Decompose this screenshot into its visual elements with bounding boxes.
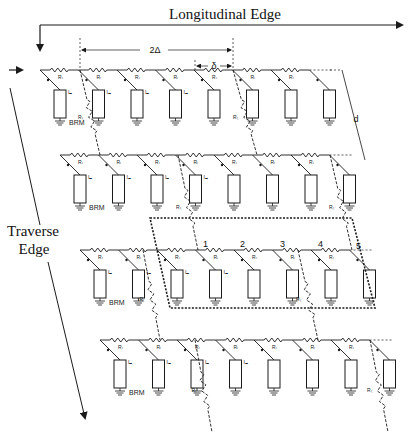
- branch-line: [80, 250, 100, 270]
- longitudinal-resistor: [253, 153, 292, 157]
- current-label: Iₘ: [88, 174, 92, 180]
- brm-box: [285, 90, 297, 118]
- brm-box: [344, 175, 356, 203]
- brm-box: [191, 360, 203, 388]
- brm-box: [268, 360, 280, 388]
- branch-line: [216, 340, 236, 360]
- resistor-label: Rₜ: [176, 204, 182, 210]
- node-number-5: 5: [356, 241, 361, 251]
- brm-box: [133, 270, 145, 298]
- longitudinal-resistor: [157, 248, 196, 252]
- brm-box: [287, 270, 299, 298]
- resistor-label: Rₗ: [214, 254, 219, 260]
- resistor-label: Rₗ: [329, 254, 334, 260]
- resistor-label: Rₜ: [329, 204, 335, 210]
- resistor-label: Rₗ: [252, 254, 257, 260]
- longitudinal-resistor: [60, 153, 99, 157]
- brm-box: [94, 270, 106, 298]
- longitudinal-resistor: [273, 248, 312, 252]
- resistor-label: Rₗ: [234, 344, 239, 350]
- node-number-1: 1: [203, 239, 208, 249]
- branch-line: [99, 155, 119, 175]
- transverse-resistor: [143, 250, 160, 340]
- longitudinal-resistor: [139, 338, 178, 342]
- longitudinal-resistor: [177, 338, 216, 342]
- longitudinal-resistor: [216, 338, 255, 342]
- brm-box: [93, 90, 105, 118]
- branch-line: [157, 250, 177, 270]
- resistor-label: Rₗ: [251, 74, 256, 80]
- branch-line: [60, 155, 80, 175]
- branch-line: [271, 70, 291, 90]
- longitudinal-edge-arrow: [40, 25, 402, 50]
- branch-line: [40, 70, 60, 90]
- longitudinal-resistor: [99, 153, 138, 157]
- resistor-label: Rₗ: [78, 159, 83, 165]
- longitudinal-resistor: [40, 68, 79, 72]
- resistor-label: Rₗ: [194, 159, 199, 165]
- longitudinal-resistor: [156, 68, 195, 72]
- current-label: Iₘ: [127, 174, 131, 180]
- longitudinal-resistor: [100, 338, 139, 342]
- resistor-label: Rₜ: [233, 114, 239, 120]
- resistor-label: Rₗ: [97, 74, 102, 80]
- brm-box: [324, 90, 336, 118]
- resistor-label: Rₗ: [135, 74, 140, 80]
- branch-line: [119, 250, 139, 270]
- resistor-label: Rₗ: [349, 344, 354, 350]
- resistor-label: Rₗ: [118, 344, 123, 350]
- brm-box: [114, 360, 126, 388]
- resistor-label: Rₗ: [309, 159, 314, 165]
- longitudinal-resistor: [291, 153, 330, 157]
- brm-box: [345, 360, 357, 388]
- dimension-d-label: d: [353, 114, 358, 124]
- branch-line: [273, 250, 293, 270]
- longitudinal-resistor: [331, 338, 370, 342]
- longitudinal-resistor: [119, 248, 158, 252]
- brm-box: [307, 360, 319, 388]
- branch-line: [139, 340, 159, 360]
- brm-box: [208, 90, 220, 118]
- current-label: Iₘ: [107, 89, 111, 95]
- longitudinal-resistor: [271, 68, 310, 72]
- branch-line: [293, 340, 313, 360]
- brm-box: [113, 175, 125, 203]
- node-number-3: 3: [280, 239, 285, 249]
- branch-line: [254, 340, 274, 360]
- resistor-label: Rₗ: [58, 74, 63, 80]
- brm-box: [151, 175, 163, 203]
- branch-line: [194, 70, 214, 90]
- traverse-edge-label-2: Edge: [19, 241, 50, 257]
- branch-line: [253, 155, 273, 175]
- brm-box: [267, 175, 279, 203]
- current-label: Iₘ: [205, 359, 209, 365]
- brm-box: [325, 270, 337, 298]
- brm-label: BRM: [129, 389, 145, 396]
- branch-line: [310, 70, 330, 90]
- current-label: Iₘ: [165, 174, 169, 180]
- brm-box: [247, 90, 259, 118]
- circuit-row-1: RₗRₗRₗRₗRₗRₗRₗIₘBRMIₘIₘIₘ: [40, 68, 336, 126]
- brm-label: BRM: [109, 299, 125, 306]
- brm-box: [131, 90, 143, 118]
- current-label: Iₘ: [244, 359, 248, 365]
- resistor-label: Rₜ: [296, 296, 302, 302]
- resistor-label: Rₗ: [272, 344, 277, 350]
- branch-line: [156, 70, 176, 90]
- brm-box: [190, 175, 202, 203]
- branch-line: [291, 155, 311, 175]
- node-number-2: 2: [240, 239, 245, 249]
- circuit-diagram: Longitudinal Edge Traverse Edge 2Δ δ d R…: [0, 0, 415, 435]
- branch-line: [234, 250, 254, 270]
- longitudinal-resistor: [233, 68, 272, 72]
- current-label: Iₘ: [184, 89, 188, 95]
- resistor-label: Rₗ: [212, 74, 217, 80]
- resistor-label: Rₗ: [271, 159, 276, 165]
- highlight-region: [150, 218, 375, 308]
- resistor-label: Rₜ: [367, 387, 373, 393]
- brm-box: [153, 360, 165, 388]
- branch-line: [117, 70, 137, 90]
- longitudinal-resistor: [117, 68, 156, 72]
- resistor-label: Rₗ: [311, 344, 316, 350]
- longitudinal-resistor: [254, 338, 293, 342]
